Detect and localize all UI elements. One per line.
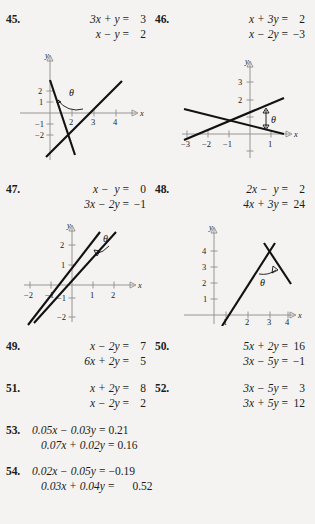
equation-rhs: 16 — [288, 339, 305, 354]
equation-row: 0.03x + 0.04y = 0.52 — [32, 479, 212, 494]
y-axis-label: y — [208, 222, 213, 232]
equation-group: 0.02x − 0.05y = −0.19 0.03x + 0.04y = 0.… — [32, 464, 212, 494]
equation-rhs: 5 — [129, 354, 146, 369]
x-tick-label-neg1: −1 — [223, 139, 232, 149]
equation-lhs: 3x + 5y — [243, 396, 278, 411]
problem-54: 54. 0.02x − 0.05y = −0.19 0.03x + 0.04y … — [6, 464, 226, 494]
plot-line-x-minus-y-0 — [34, 232, 116, 323]
equation-row: x + 3y = 2 — [181, 12, 305, 27]
angle-label-theta: θ — [271, 114, 276, 125]
angle-label-theta: θ — [69, 87, 74, 98]
equation-row: 3x + 5y = 12 — [181, 396, 305, 411]
equation-relation: = — [279, 197, 289, 212]
equation-lhs: x − 2y — [90, 396, 119, 411]
problem-46: 46. x + 3y = 2 x − 2y = −3 — [155, 12, 305, 42]
y-tick-label-2: 2 — [38, 86, 42, 96]
equation-group: 3x − 5y = 3 3x + 5y = 12 — [181, 381, 305, 411]
equation-rhs: −1 — [129, 197, 146, 212]
graph-45: 2 3 4 2 1 −1 −2 x y θ — [14, 52, 149, 162]
y-axis-label: y — [66, 220, 71, 230]
equation-rhs: 2 — [129, 396, 146, 411]
angle-label-theta: θ — [260, 277, 265, 288]
y-tick-label-2: 2 — [60, 240, 64, 250]
equation-relation: = — [105, 438, 115, 453]
equation-rhs: 12 — [288, 396, 305, 411]
equation-lhs: 3x − 5y — [243, 354, 278, 369]
equation-relation: = — [279, 354, 289, 369]
y-axis-label: y — [44, 52, 49, 60]
equation-relation: = — [279, 27, 289, 42]
equation-rhs: 2 — [288, 182, 305, 197]
equation-relation: = — [120, 354, 130, 369]
x-tick-label-3: 3 — [267, 317, 271, 326]
equation-row: 0.07x + 0.02y = 0.16 — [32, 438, 192, 453]
y-tick-label-neg2: −2 — [35, 130, 44, 140]
equation-lhs: 2x − y — [246, 182, 278, 197]
equation-lhs: x − 2y — [249, 27, 278, 42]
equation-relation: = — [120, 12, 130, 27]
y-tick-label-1: 1 — [39, 97, 43, 107]
x-tick-label-2: 2 — [69, 117, 73, 127]
equation-row: 4x + 3y = 24 — [181, 197, 305, 212]
equation-lhs: 3x + y — [90, 12, 119, 27]
equation-lhs: x + 3y — [249, 12, 278, 27]
equation-lhs: 6x + 2y — [84, 354, 119, 369]
y-tick-label-neg2: −2 — [57, 312, 66, 322]
equation-relation: = — [96, 464, 106, 479]
angle-arc — [58, 100, 83, 110]
x-axis-label: x — [139, 108, 144, 118]
equation-lhs: x − y — [93, 182, 120, 197]
equation-rhs: 0.21 — [105, 423, 128, 438]
equation-row: 3x − 5y = −1 — [181, 354, 305, 369]
equation-relation: = — [120, 182, 130, 197]
problem-number: 47. — [6, 182, 20, 197]
graph-48: 1 2 3 4 4 3 2 1 x y θ — [176, 218, 315, 326]
y-tick-label-1: 1 — [61, 260, 65, 270]
equation-relation: = — [120, 396, 130, 411]
equation-rhs: −0.19 — [105, 464, 135, 479]
equation-rhs: −1 — [288, 354, 305, 369]
x-tick-label-3: 3 — [91, 117, 95, 127]
problem-49: 49. x − 2y = 7 6x + 2y = 5 — [6, 339, 146, 369]
equation-relation: = — [105, 479, 115, 494]
graph-47: −2 −1 1 2 2 1 −1 −2 x y θ — [16, 218, 151, 326]
equation-lhs: x + 2y — [90, 381, 119, 396]
y-axis-label: y — [244, 56, 249, 66]
equation-rhs: 3 — [129, 12, 146, 27]
equation-relation: = — [120, 339, 130, 354]
problem-53: 53. 0.05x − 0.03y = 0.21 0.07x + 0.02y =… — [6, 423, 226, 453]
equation-row: x − 2y = −3 — [181, 27, 305, 42]
equation-row: 3x − 2y = −1 — [32, 197, 146, 212]
problem-number: 48. — [155, 182, 169, 197]
equation-row: x − 2y = 2 — [32, 396, 146, 411]
equation-lhs: 0.03x + 0.04y — [41, 479, 105, 494]
equation-row: 6x + 2y = 5 — [32, 354, 146, 369]
equation-group: x − 2y = 7 6x + 2y = 5 — [32, 339, 146, 369]
problem-52: 52. 3x − 5y = 3 3x + 5y = 12 — [155, 381, 305, 411]
textbook-exercise-page: 45. 3x + y = 3 x − y = 2 46. x + 3y = 2 … — [0, 0, 315, 524]
equation-group: x + 2y = 8 x − 2y = 2 — [32, 381, 146, 411]
equation-relation: = — [120, 197, 130, 212]
equation-row: x − y = 2 — [32, 27, 146, 42]
equation-rhs: −3 — [288, 27, 305, 42]
problem-number: 46. — [155, 12, 169, 27]
equation-rhs: 2 — [288, 12, 305, 27]
equation-group: x − y = 0 3x − 2y = −1 — [32, 182, 146, 212]
equation-rhs: 7 — [129, 339, 146, 354]
equation-lhs: 3x − 5y — [243, 381, 278, 396]
equation-rhs: 8 — [129, 381, 146, 396]
equation-rhs: 0.52 — [114, 479, 152, 494]
equation-group: 3x + y = 3 x − y = 2 — [32, 12, 146, 42]
problem-number: 49. — [6, 339, 20, 354]
y-tick-label-1: 1 — [203, 294, 207, 304]
problem-45: 45. 3x + y = 3 x − y = 2 — [6, 12, 146, 42]
equation-relation: = — [96, 423, 106, 438]
equation-lhs: x − 2y — [90, 339, 119, 354]
equation-row: 3x − 5y = 3 — [181, 381, 305, 396]
equation-lhs: 3x − 2y — [84, 197, 119, 212]
problem-48: 48. 2x − y = 2 4x + 3y = 24 — [155, 182, 305, 212]
problem-number: 50. — [155, 339, 169, 354]
equation-rhs: 3 — [288, 381, 305, 396]
plot-line-x-minus-y-2 — [46, 81, 122, 157]
x-tick-label-4: 4 — [113, 117, 118, 127]
